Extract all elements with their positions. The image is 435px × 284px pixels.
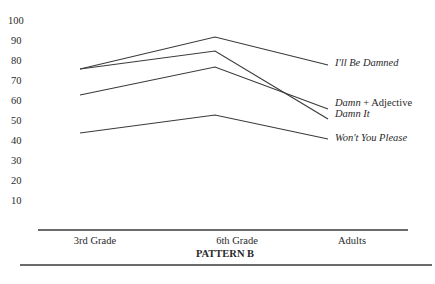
series-line-damn-adjective [80,67,328,109]
series-line-won-t-you-please [80,115,328,139]
x-tick-6th-grade: 6th Grade [216,235,258,247]
legend-ill-be-damned: I'll Be Damned [335,57,398,69]
legend-damn-it: Damn It [335,108,370,120]
chart-title: PATTERN B [196,248,254,260]
x-tick-adults: Adults [338,235,366,247]
x-tick-3rd-grade: 3rd Grade [74,235,116,247]
legend-wont-you-please: Won't You Please [335,132,407,144]
legend-damn-adjective-italic: Damn [335,97,361,108]
series-line-damn-it [80,51,328,119]
legend-damn-adjective-rest: + Adjective [361,97,412,108]
